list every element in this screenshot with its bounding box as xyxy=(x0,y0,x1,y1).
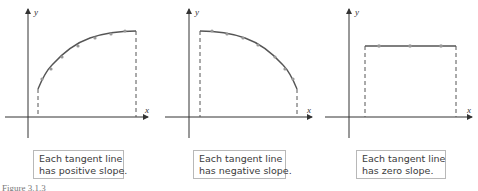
caption-line-2: has zero slope. xyxy=(362,165,440,177)
y-axis-label: y xyxy=(194,7,199,17)
curve xyxy=(200,31,297,89)
y-axis-label: y xyxy=(354,7,359,17)
caption-line-2: has negative slope. xyxy=(199,165,280,177)
tangent-dots xyxy=(210,29,294,80)
caption-positive-slope: Each tangent line has positive slope. xyxy=(33,150,124,179)
tangent-dots xyxy=(40,29,126,80)
caption-line-1: Each tangent line xyxy=(39,153,118,165)
caption-line-1: Each tangent line xyxy=(362,153,440,165)
x-axis-label: x xyxy=(306,105,311,115)
caption-negative-slope: Each tangent line has negative slope. xyxy=(193,150,286,179)
panel-negative-slope: y x xyxy=(165,7,312,138)
caption-zero-slope: Each tangent line has zero slope. xyxy=(356,150,446,179)
caption-line-1: Each tangent line xyxy=(199,153,280,165)
y-axis-label: y xyxy=(33,7,38,17)
caption-line-2: has positive slope. xyxy=(39,165,118,177)
curve xyxy=(38,31,136,89)
figure-label: Figure 3.1.3 xyxy=(2,183,46,191)
panel-zero-slope: y x xyxy=(325,7,472,138)
panel-positive-slope: y x xyxy=(5,7,149,138)
x-axis-label: x xyxy=(466,105,471,115)
x-axis-label: x xyxy=(144,105,149,115)
